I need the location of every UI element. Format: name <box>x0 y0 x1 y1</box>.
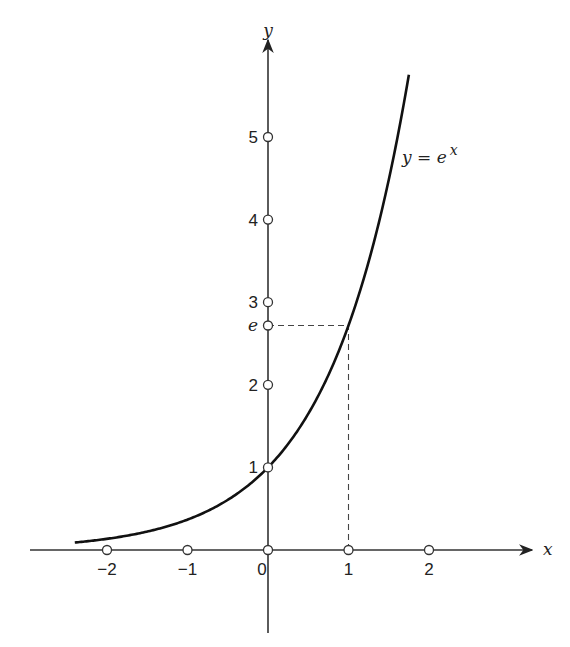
x-axis-label: x <box>543 539 553 559</box>
y-tick-label: 3 <box>249 293 258 312</box>
y-axis-label: y <box>262 20 273 40</box>
chart-svg: −2−101212e345yxy = ex <box>0 0 570 647</box>
exp-curve <box>75 75 409 543</box>
curve-label: y = ex <box>401 142 458 167</box>
y-tick-label: 1 <box>249 458 258 477</box>
y-tick-label: 5 <box>249 128 258 147</box>
x-tick-marker <box>425 546 434 555</box>
x-tick-marker <box>264 546 273 555</box>
x-tick-label: 1 <box>344 560 353 579</box>
axes <box>30 40 532 633</box>
x-tick-label: 2 <box>424 560 433 579</box>
y-tick-marker <box>264 298 273 307</box>
axis-labels: −2−101212e345yxy = ex <box>97 20 553 579</box>
exponential-chart: −2−101212e345yxy = ex <box>0 0 570 647</box>
x-tick-marker <box>103 546 112 555</box>
x-tick-label: −2 <box>97 560 116 579</box>
y-tick-marker <box>264 133 273 142</box>
y-tick-marker <box>264 215 273 224</box>
x-tick-label: −1 <box>178 560 197 579</box>
exp-curve-path <box>75 75 409 543</box>
y-tick-marker <box>264 463 273 472</box>
y-tick-label: e <box>248 315 258 335</box>
y-tick-label: 4 <box>249 211 258 230</box>
x-tick-label: 0 <box>257 560 266 579</box>
x-tick-marker <box>183 546 192 555</box>
y-tick-marker <box>264 321 273 330</box>
y-tick-label: 2 <box>249 376 258 395</box>
x-tick-marker <box>344 546 353 555</box>
y-tick-marker <box>264 380 273 389</box>
